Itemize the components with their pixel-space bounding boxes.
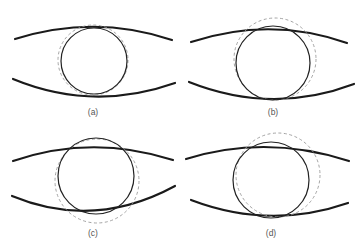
lower-boundary-curve — [12, 186, 175, 211]
lower-boundary-curve — [189, 82, 354, 99]
figure-canvas: (a) (b) (c) (d) — [0, 0, 362, 252]
dashed-reference-circle — [236, 133, 320, 217]
upper-boundary-curve — [191, 29, 347, 43]
upper-boundary-curve — [13, 147, 173, 161]
solid-circle — [233, 142, 309, 218]
panel-label: (c) — [88, 228, 98, 238]
panel-a: (a) — [13, 25, 175, 117]
panel-b: (b) — [189, 18, 354, 117]
panel-label: (a) — [88, 107, 99, 117]
upper-boundary-curve — [15, 27, 172, 40]
lower-boundary-curve — [191, 200, 348, 216]
panel-label: (d) — [266, 228, 277, 238]
panel-d: (d) — [186, 133, 349, 238]
panel-label: (b) — [268, 107, 279, 117]
solid-circle — [58, 138, 134, 214]
solid-circle — [61, 28, 127, 94]
upper-boundary-curve — [186, 147, 349, 161]
solid-circle — [236, 26, 310, 100]
panel-c: (c) — [12, 138, 175, 238]
